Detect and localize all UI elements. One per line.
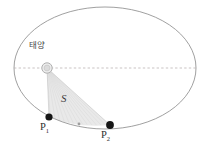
orbit-tick-dot <box>78 123 81 126</box>
orbital-ellipse <box>14 7 196 129</box>
point-p2-label: P2 <box>101 130 110 143</box>
orbit-diagram-svg <box>0 0 206 146</box>
point-p1-label-subscript: 1 <box>46 127 49 134</box>
planet-point-p2 <box>106 121 114 129</box>
sun-label: 태양 <box>29 41 45 50</box>
point-p2-label-subscript: 2 <box>107 135 110 142</box>
sun-marker <box>42 63 52 73</box>
planet-point-p1 <box>45 113 52 120</box>
swept-area-label: S <box>61 93 67 104</box>
point-p1-label: P1 <box>40 122 49 135</box>
orbit-diagram-figure: 태양 S P1 P2 <box>0 0 206 146</box>
